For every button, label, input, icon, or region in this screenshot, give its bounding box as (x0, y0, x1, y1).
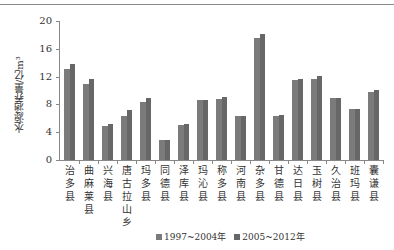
y-tick-mark (56, 132, 59, 133)
bar-series2 (336, 98, 342, 160)
x-tick-mark (136, 161, 137, 164)
legend-item: 2005~2012年 (234, 232, 304, 242)
legend-label: 1997~2004年 (164, 232, 226, 242)
bar-series2 (317, 76, 323, 160)
x-tick-mark (79, 161, 80, 164)
x-tick-mark (288, 161, 289, 164)
y-tick-label: 4 (30, 127, 52, 137)
bar-series2 (279, 115, 285, 160)
y-tick-mark (56, 21, 59, 22)
x-tick-label: 班玛县 (348, 164, 362, 203)
x-axis (59, 160, 384, 161)
bar-series2 (70, 64, 76, 160)
x-tick-mark (364, 161, 365, 164)
x-tick-label: 杂多县 (253, 164, 267, 203)
y-tick-mark (56, 160, 59, 161)
x-tick-label: 曲麻莱县 (82, 164, 96, 216)
x-tick-mark (155, 161, 156, 164)
bar-series2 (374, 90, 380, 160)
bar-series2 (184, 124, 190, 160)
x-tick-label: 同德县 (158, 164, 172, 203)
legend-swatch-icon (234, 234, 240, 240)
bar-series2 (298, 79, 304, 160)
y-tick-mark (56, 49, 59, 50)
x-tick-mark (174, 161, 175, 164)
y-tick-label: 20 (30, 16, 52, 26)
x-tick-mark (250, 161, 251, 164)
y-tick-label: 12 (30, 72, 52, 82)
legend-label: 2005~2012年 (242, 232, 304, 242)
bar-series2 (222, 97, 228, 160)
x-tick-label: 玛多县 (139, 164, 153, 203)
x-tick-label: 治多县 (63, 164, 77, 203)
bar-series2 (355, 109, 361, 160)
bar-series2 (127, 110, 133, 160)
x-tick-mark (98, 161, 99, 164)
y-tick-mark (56, 77, 59, 78)
bar-series2 (241, 116, 247, 160)
x-tick-mark (326, 161, 327, 164)
y-axis-label: 水源涵养量/亿m³ (14, 30, 28, 160)
x-tick-label: 达日县 (291, 164, 305, 203)
y-axis (59, 21, 60, 161)
x-tick-label: 甘德县 (272, 164, 286, 203)
bar-series2 (203, 100, 209, 160)
bar-chart: 水源涵养量/亿m³ 048121620 治多县曲麻莱县兴海县唐古拉山乡玛多县同德… (0, 0, 394, 250)
bar-series2 (146, 98, 152, 160)
x-tick-label: 囊谦县 (367, 164, 381, 203)
bar-series2 (165, 140, 171, 160)
bar-series2 (260, 34, 266, 160)
x-tick-label: 兴海县 (101, 164, 115, 203)
x-tick-mark (269, 161, 270, 164)
legend-item: 1997~2004年 (156, 232, 226, 242)
x-tick-label: 河南县 (234, 164, 248, 203)
x-tick-mark (231, 161, 232, 164)
x-tick-mark (212, 161, 213, 164)
x-tick-mark (117, 161, 118, 164)
x-tick-label: 久治县 (329, 164, 343, 203)
legend-swatch-icon (156, 234, 162, 240)
x-tick-mark (307, 161, 308, 164)
x-tick-mark (383, 161, 384, 164)
bar-series2 (89, 79, 95, 160)
x-tick-label: 唐古拉山乡 (120, 164, 134, 229)
legend: 1997~2004年2005~2012年 (156, 232, 305, 242)
x-tick-label: 玛沁县 (196, 164, 210, 203)
x-tick-label: 称多县 (215, 164, 229, 203)
x-tick-mark (345, 161, 346, 164)
x-tick-label: 玉树县 (310, 164, 324, 203)
y-tick-label: 16 (30, 44, 52, 54)
y-tick-label: 8 (30, 99, 52, 109)
bar-series2 (108, 124, 114, 160)
x-tick-mark (193, 161, 194, 164)
y-tick-label: 0 (30, 155, 52, 165)
y-tick-mark (56, 104, 59, 105)
x-tick-label: 泽库县 (177, 164, 191, 203)
